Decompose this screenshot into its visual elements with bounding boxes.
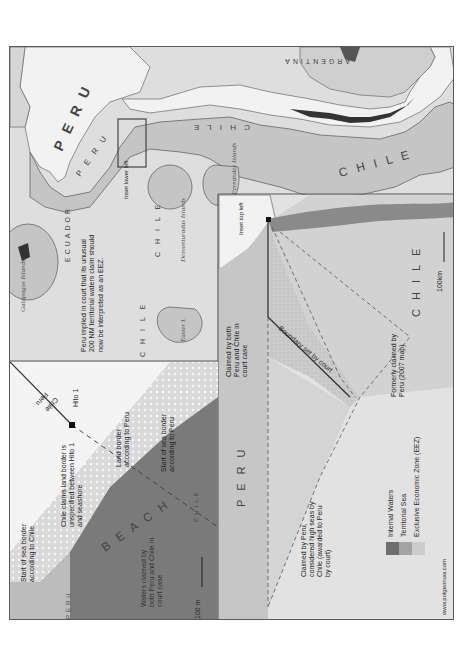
peru-eez — [219, 222, 268, 620]
legend-label-eez: Exclusive Economic Zone (EEZ) — [413, 437, 421, 537]
label-ecuador: ECUADOR — [64, 206, 71, 262]
label-peru-dispute: P E R U — [235, 446, 247, 507]
label-inset-top-left: Inset top left — [238, 195, 245, 235]
label-high-seas: Claimed by Peru, considered high seas by… — [300, 497, 332, 577]
label-waters-claimed: Waters claimed by both Peru and Chile in… — [140, 537, 164, 607]
hito-1-marker — [69, 422, 75, 428]
legend-swatch-territorial — [399, 542, 412, 555]
legend-swatch-eez — [412, 542, 425, 555]
legend-label-territorial: Territorial Sea — [400, 494, 407, 537]
credit: www.polgeonow.com — [441, 559, 447, 616]
label-chile-small: CHILE — [193, 489, 199, 522]
inset-dispute: Inset top left Claimed by both Peru and … — [219, 195, 454, 620]
label-argentina: ARGENTINA — [282, 58, 350, 65]
label-chile-desventuradas: C H I L E — [154, 202, 161, 257]
label-chile-dispute: C H I L E — [410, 246, 422, 317]
note-inset-lower-left: Inset lower left — [123, 159, 130, 199]
map-canvas: P E R U P E R U C H I L E C H I L E ARGE… — [10, 47, 454, 620]
label-peru-small: PERU — [65, 590, 71, 619]
label-start-sea-peru: Start of sea border according to Peru — [160, 402, 176, 472]
inset-top-left-marker — [266, 217, 271, 222]
label-start-sea-chile: Start of sea border according to Chile — [20, 522, 36, 582]
label-desventuradas: Desventuradas Islands — [179, 198, 187, 263]
label-scale-100km: 100km — [436, 271, 443, 292]
label-chile-easter: C H I L E — [139, 302, 146, 357]
label-formerly: Formerly claimed by Peru (2007 map) — [390, 327, 406, 397]
legend-label-internal: Internal Waters — [387, 489, 394, 537]
label-claimed-both: Claimed by both Peru and Chile in court … — [225, 317, 249, 377]
inset-beach: Hito 1 Peru Chile B E A C H CHILE PERU 1… — [10, 362, 218, 620]
label-land-border-peru: Land border according to Peru — [115, 412, 131, 467]
label-hito-1: Hito 1 — [72, 389, 79, 407]
map-frame: P E R U P E R U C H I L E C H I L E ARGE… — [9, 46, 454, 620]
legend-swatch-internal — [386, 542, 399, 555]
label-galapagos: Galápagos Islands — [19, 259, 27, 312]
label-chile-claims: Chile claims land border is unspecified … — [60, 437, 84, 527]
note-peru-claim: Peru implied in court that its unusual 2… — [80, 232, 105, 352]
label-easter: Easter I. — [179, 318, 187, 343]
label-chile-coast: C H I L E — [191, 123, 250, 132]
label-scale-100m: 100 m — [194, 599, 201, 619]
